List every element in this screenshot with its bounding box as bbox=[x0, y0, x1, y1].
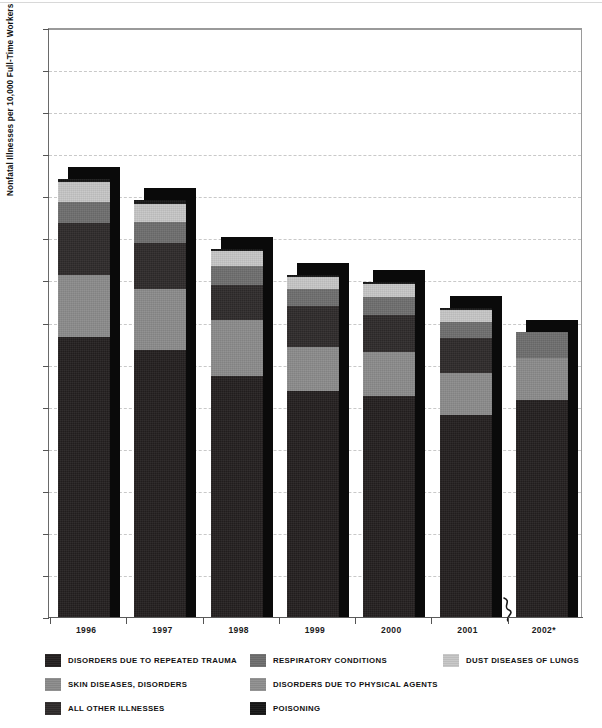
legend-label-respiratory: RESPIRATORY CONDITIONS bbox=[273, 656, 387, 665]
bar-segment bbox=[211, 320, 263, 376]
legend-item-dust-diseases[interactable]: DUST DISEASES OF LUNGS bbox=[443, 654, 579, 667]
legend-label-all-other: ALL OTHER ILLNESSES bbox=[68, 704, 165, 713]
x-axis-tick bbox=[279, 617, 280, 624]
bar-segment bbox=[134, 289, 186, 350]
y-axis-tick bbox=[43, 29, 49, 30]
legend-item-poisoning[interactable]: POISONING bbox=[250, 702, 320, 715]
legend-label-physical-agents: DISORDERS DUE TO PHYSICAL AGENTS bbox=[273, 680, 438, 689]
bar-segment bbox=[134, 350, 186, 617]
y-axis-tick bbox=[43, 71, 49, 72]
y-axis-tick bbox=[43, 492, 49, 493]
legend-row: ALL OTHER ILLNESSES POISONING bbox=[45, 702, 585, 726]
y-axis-tick bbox=[43, 155, 49, 156]
legend-swatch-physical-agents bbox=[250, 678, 266, 691]
bar-segment bbox=[363, 315, 415, 352]
bar-segment bbox=[58, 223, 110, 274]
bar-segment bbox=[134, 204, 186, 223]
x-axis-tick bbox=[203, 617, 204, 624]
x-axis-tick bbox=[50, 617, 51, 624]
bar-segment bbox=[516, 332, 568, 358]
bar-segment bbox=[363, 297, 415, 315]
legend-swatch-all-other bbox=[45, 702, 61, 715]
bar-segment bbox=[363, 284, 415, 297]
y-axis-tick bbox=[43, 281, 49, 282]
bar-2001[interactable] bbox=[440, 308, 492, 617]
y-axis-tick bbox=[43, 366, 49, 367]
legend-row: DISORDERS DUE TO REPEATED TRAUMA RESPIRA… bbox=[45, 654, 585, 678]
x-axis-label-1998: 1998 bbox=[199, 625, 279, 635]
bar-segment bbox=[211, 376, 263, 617]
x-axis-label-2002: 2002* bbox=[504, 625, 584, 635]
legend-item-skin-diseases[interactable]: SKIN DISEASES, DISORDERS bbox=[45, 678, 187, 691]
bar-segment bbox=[363, 352, 415, 396]
gridline bbox=[49, 197, 581, 198]
bar-segment bbox=[211, 285, 263, 319]
gridline bbox=[49, 239, 581, 240]
bar-2002[interactable] bbox=[516, 332, 568, 617]
bar-segment bbox=[211, 266, 263, 285]
bar-segment bbox=[363, 396, 415, 617]
legend-item-respiratory[interactable]: RESPIRATORY CONDITIONS bbox=[250, 654, 387, 667]
bar-segment bbox=[134, 243, 186, 289]
x-axis-tick bbox=[355, 617, 356, 624]
legend-label-dust-diseases: DUST DISEASES OF LUNGS bbox=[466, 656, 579, 665]
legend-swatch-poisoning bbox=[250, 702, 266, 715]
x-axis-label-1996: 1996 bbox=[46, 625, 126, 635]
legend-label-poisoning: POISONING bbox=[273, 704, 320, 713]
y-axis-tick bbox=[43, 618, 49, 619]
bar-segment bbox=[58, 182, 110, 202]
bar-1996[interactable] bbox=[58, 179, 110, 617]
x-axis-label-2001: 2001 bbox=[428, 625, 508, 635]
bar-segment bbox=[440, 373, 492, 415]
legend-swatch-respiratory bbox=[250, 654, 266, 667]
x-axis-tick bbox=[431, 617, 432, 624]
gridline bbox=[49, 29, 581, 30]
bar-segment bbox=[58, 337, 110, 617]
y-axis-tick bbox=[43, 324, 49, 325]
y-axis-tick bbox=[43, 113, 49, 114]
chart-legend: DISORDERS DUE TO REPEATED TRAUMA RESPIRA… bbox=[45, 654, 585, 726]
gridline bbox=[49, 113, 581, 114]
bar-1997[interactable] bbox=[134, 200, 186, 617]
legend-row: SKIN DISEASES, DISORDERS DISORDERS DUE T… bbox=[45, 678, 585, 702]
bar-segment bbox=[287, 277, 339, 289]
bar-segment bbox=[516, 358, 568, 400]
legend-item-repeated-trauma[interactable]: DISORDERS DUE TO REPEATED TRAUMA bbox=[45, 654, 237, 667]
bar-1999[interactable] bbox=[287, 275, 339, 617]
y-axis-title-container: Nonfatal Illnesses per 10,000 Full-Time … bbox=[8, 0, 28, 617]
bar-segment bbox=[440, 310, 492, 322]
bar-segment bbox=[287, 391, 339, 617]
y-axis-tick bbox=[43, 534, 49, 535]
bar-segment bbox=[287, 289, 339, 306]
legend-swatch-dust-diseases bbox=[443, 654, 459, 667]
legend-swatch-skin-diseases bbox=[45, 678, 61, 691]
y-axis-tick bbox=[43, 239, 49, 240]
bar-2000[interactable] bbox=[363, 282, 415, 617]
legend-item-physical-agents[interactable]: DISORDERS DUE TO PHYSICAL AGENTS bbox=[250, 678, 438, 691]
bar-segment bbox=[287, 306, 339, 347]
bar-segment bbox=[58, 202, 110, 223]
bar-segment bbox=[211, 251, 263, 266]
legend-label-skin-diseases: SKIN DISEASES, DISORDERS bbox=[68, 680, 187, 689]
bar-segment bbox=[287, 347, 339, 391]
bar-segment bbox=[440, 415, 492, 617]
legend-swatch-repeated-trauma bbox=[45, 654, 61, 667]
y-axis-tick bbox=[43, 576, 49, 577]
bar-1998[interactable] bbox=[211, 249, 263, 617]
bar-segment bbox=[440, 322, 492, 338]
y-axis-tick bbox=[43, 408, 49, 409]
x-axis-tick bbox=[126, 617, 127, 624]
stacked-bar-chart-figure: Nonfatal Illnesses per 10,000 Full-Time … bbox=[0, 0, 602, 728]
legend-item-all-other[interactable]: ALL OTHER ILLNESSES bbox=[45, 702, 165, 715]
bar-segment bbox=[58, 275, 110, 337]
y-axis-title: Nonfatal Illnesses per 10,000 Full-Time … bbox=[6, 0, 15, 196]
gridline bbox=[49, 71, 581, 72]
bar-segment bbox=[134, 222, 186, 242]
legend-label-repeated-trauma: DISORDERS DUE TO REPEATED TRAUMA bbox=[68, 656, 237, 665]
bar-segment bbox=[516, 400, 568, 617]
bar-segment bbox=[440, 338, 492, 373]
x-axis-label-2000: 2000 bbox=[351, 625, 431, 635]
x-axis-tick bbox=[508, 617, 509, 624]
x-axis-label-1997: 1997 bbox=[122, 625, 202, 635]
y-axis-tick bbox=[43, 197, 49, 198]
